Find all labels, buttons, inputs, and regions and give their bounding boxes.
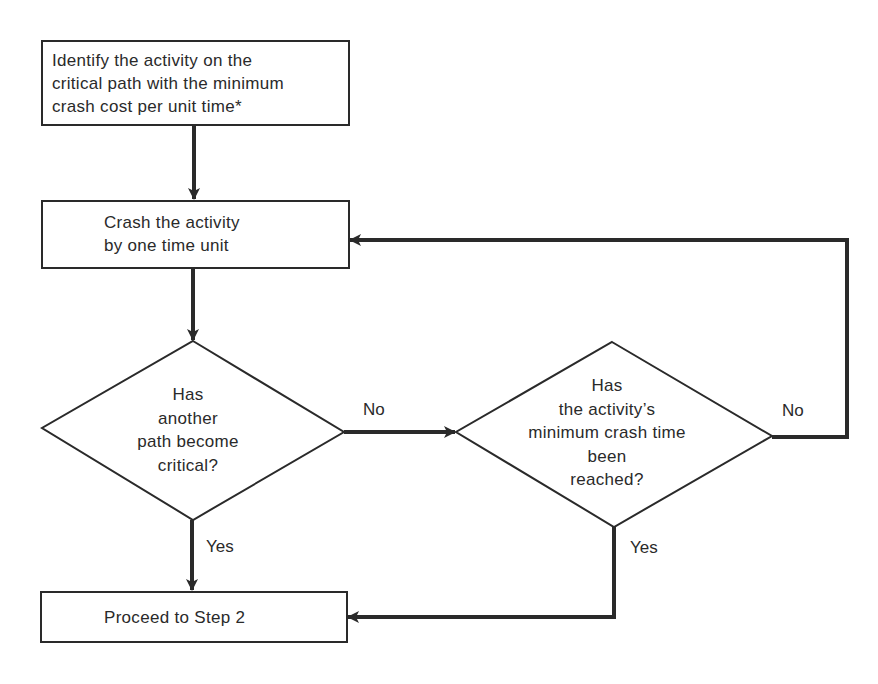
- label-yes-another-path: Yes: [206, 537, 234, 557]
- text-line: Proceed to Step 2: [104, 606, 344, 629]
- decision-another-path-text: Has another path become critical?: [103, 383, 273, 477]
- arrow-yes-min-time-to-proceed: [348, 527, 614, 617]
- text-line: another: [103, 407, 273, 431]
- decision-min-crash-time-text: Has the activity’s minimum crash time be…: [502, 374, 712, 492]
- text-line: the activity’s: [502, 398, 712, 422]
- label-yes-min-time: Yes: [630, 538, 658, 558]
- text-line: been: [502, 445, 712, 469]
- text-line: path become: [103, 430, 273, 454]
- identify-activity-text: Identify the activity on the critical pa…: [52, 49, 352, 118]
- text-line: Identify the activity on the: [52, 49, 352, 72]
- label-no-another-path: No: [363, 400, 385, 420]
- label-no-min-time: No: [782, 401, 804, 421]
- text-line: Has: [103, 383, 273, 407]
- text-line: reached?: [502, 468, 712, 492]
- text-line: Has: [502, 374, 712, 398]
- text-line: by one time unit: [104, 234, 344, 257]
- text-line: Crash the activity: [104, 211, 344, 234]
- text-line: critical path with the minimum: [52, 72, 352, 95]
- proceed-step-2-text: Proceed to Step 2: [104, 606, 344, 629]
- crash-activity-text: Crash the activity by one time unit: [104, 211, 344, 257]
- text-line: crash cost per unit time*: [52, 95, 352, 118]
- text-line: minimum crash time: [502, 421, 712, 445]
- text-line: critical?: [103, 454, 273, 478]
